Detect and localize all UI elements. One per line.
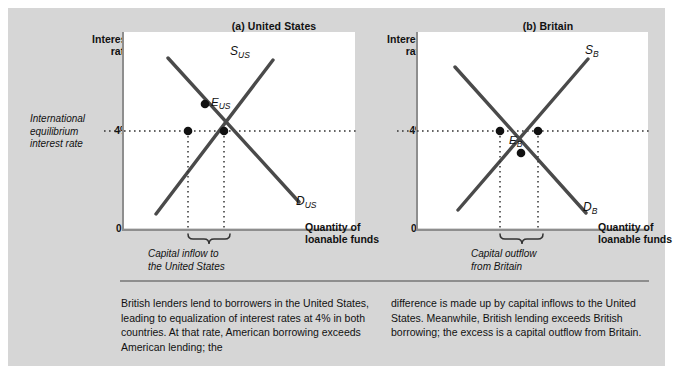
x-axis-label-britain: Quantity of loanable funds bbox=[598, 222, 672, 245]
figure-panel: (a) United States Interest rate Internat… bbox=[8, 8, 665, 366]
supply-curve-label-britain: SB bbox=[585, 43, 599, 59]
equilibrium-label-britain: EB bbox=[509, 134, 522, 149]
borrowing-point-britain bbox=[496, 127, 505, 136]
equilibrium-point-britain bbox=[517, 149, 526, 158]
capital-outflow-note-line2: from Britain bbox=[471, 261, 522, 272]
caption-divider bbox=[120, 280, 649, 282]
x-axis-label-britain-line1: Quantity of bbox=[598, 221, 653, 233]
caption-left: British lenders lend to borrowers in the… bbox=[121, 296, 384, 354]
supply-curve-britain bbox=[458, 59, 588, 210]
capital-outflow-brace bbox=[500, 234, 543, 244]
x-axis-label-britain-line2: loanable funds bbox=[598, 233, 672, 245]
demand-curve-label-britain: DB bbox=[583, 200, 597, 216]
capital-outflow-note: Capital outflow from Britain bbox=[471, 248, 537, 273]
figure-root: (a) United States Interest rate Internat… bbox=[0, 0, 673, 374]
lending-point-britain bbox=[534, 127, 543, 136]
caption-right: difference is made up by capital inflows… bbox=[391, 296, 653, 340]
capital-outflow-note-line1: Capital outflow bbox=[471, 248, 537, 259]
